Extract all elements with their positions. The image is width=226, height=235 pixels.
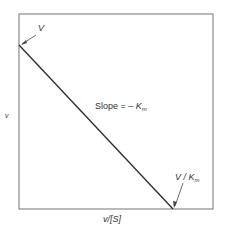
slope-label: Slope = – Km	[95, 101, 147, 112]
plot-canvas	[0, 0, 226, 235]
data-line	[19, 45, 173, 209]
x-axis-label: v/[S]	[103, 214, 121, 224]
x-intercept-main: V / K	[175, 172, 195, 182]
x-intercept-sub: m	[195, 177, 200, 183]
arrowhead-icon	[173, 201, 177, 208]
x-intercept-label: V / Km	[175, 172, 200, 183]
y-intercept-label: V	[38, 23, 44, 33]
slope-prefix: Slope = –	[95, 101, 136, 111]
slope-sub: m	[142, 106, 147, 112]
y-axis-label: v	[5, 112, 9, 119]
arrowhead-icon	[21, 40, 27, 45]
